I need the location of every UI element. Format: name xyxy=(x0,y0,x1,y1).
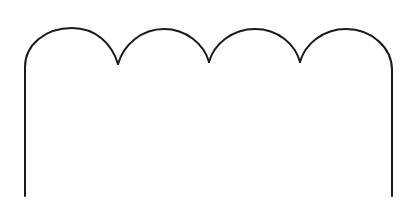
diagram-canvas xyxy=(0,0,414,214)
arch-1 xyxy=(25,28,118,67)
scalloped-outline xyxy=(25,28,392,196)
arch-3 xyxy=(209,29,300,62)
arch-2 xyxy=(118,29,209,64)
arch-4 xyxy=(300,29,392,70)
